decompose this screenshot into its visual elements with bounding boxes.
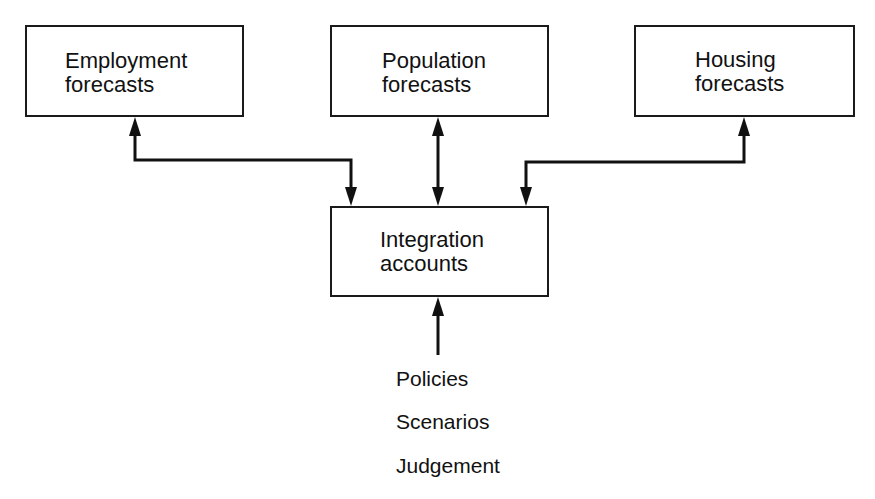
population-forecasts-box: Population forecasts: [330, 25, 549, 117]
input-scenarios: Scenarios: [396, 410, 489, 434]
input-judgement: Judgement: [396, 454, 500, 478]
employment-forecasts-box: Employment forecasts: [25, 25, 244, 117]
arrowhead-population-down: [432, 187, 444, 206]
box-label-line2: forecasts: [382, 73, 486, 97]
box-label-line1: Housing: [695, 48, 784, 72]
box-label-line2: forecasts: [65, 73, 187, 97]
box-label-line2: accounts: [380, 252, 484, 276]
integration-accounts-box: Integration accounts: [330, 206, 549, 297]
housing-connector: [526, 136, 744, 188]
box-label-line1: Population: [382, 49, 486, 73]
box-label-line1: Integration: [380, 228, 484, 252]
arrowhead-population-up: [432, 117, 444, 136]
arrowhead-housing-down: [520, 187, 532, 206]
arrowhead-employment-down: [345, 187, 357, 206]
employment-connector: [135, 136, 351, 188]
box-label-line2: forecasts: [695, 72, 784, 96]
arrowhead-housing-up: [738, 117, 750, 136]
arrowhead-inputs-up: [432, 297, 444, 316]
input-policies: Policies: [396, 367, 468, 391]
housing-forecasts-box: Housing forecasts: [634, 25, 855, 117]
box-label-line1: Employment: [65, 49, 187, 73]
arrowhead-employment-up: [129, 117, 141, 136]
